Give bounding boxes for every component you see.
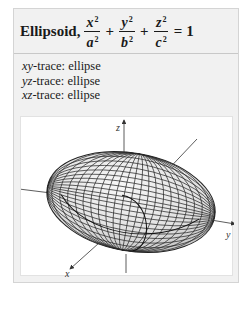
y-axis-label: y: [225, 229, 231, 240]
exponent: 2: [94, 35, 98, 44]
ellipsoid-card: Ellipsoid, x2 a2 + y2 b2 + z2 c2 = 1 xy-…: [13, 8, 239, 283]
trace-description: -trace: ellipse: [33, 59, 101, 73]
fraction-z: z2 c2: [154, 13, 169, 50]
numerator-z: z: [156, 15, 161, 30]
fraction-x: x2 a2: [84, 13, 100, 50]
x-axis: [70, 243, 99, 269]
x-axis-label: x: [64, 268, 70, 277]
y-axis: [211, 220, 234, 224]
ellipsoid-figure: z y x: [20, 116, 233, 276]
equals-sign: =: [174, 23, 183, 40]
z-axis-label: z: [115, 122, 120, 133]
plus-sign: +: [105, 23, 114, 40]
title-word: Ellipsoid,: [20, 23, 80, 40]
trace-description: -trace: ellipse: [32, 88, 100, 102]
plus-sign: +: [140, 23, 149, 40]
card-header: Ellipsoid, x2 a2 + y2 b2 + z2 c2 = 1: [14, 9, 238, 54]
exponent: 2: [129, 35, 133, 44]
trace-list: xy-trace: ellipse yz-trace: ellipse xz-t…: [22, 59, 101, 103]
rhs-value: 1: [186, 23, 194, 40]
numerator-x: x: [86, 15, 93, 30]
trace-yz: yz-trace: ellipse: [22, 74, 101, 89]
trace-description: -trace: ellipse: [32, 74, 100, 88]
trace-plane: xz: [22, 88, 32, 102]
exponent: 2: [94, 15, 98, 24]
denominator-a: a: [86, 35, 93, 50]
exponent: 2: [163, 35, 167, 44]
trace-xy: xy-trace: ellipse: [22, 59, 101, 74]
trace-xz: xz-trace: ellipse: [22, 88, 101, 103]
exponent: 2: [162, 15, 166, 24]
exponent: 2: [129, 15, 133, 24]
fraction-y: y2 b2: [119, 13, 135, 50]
title: Ellipsoid, x2 a2 + y2 b2 + z2 c2 = 1: [20, 13, 198, 50]
trace-plane: xy: [22, 59, 33, 73]
ellipsoid-surface: [39, 139, 223, 265]
denominator-c: c: [156, 35, 162, 50]
ellipsoid-plot: z y x: [21, 117, 234, 277]
numerator-y: y: [121, 15, 127, 30]
trace-plane: yz: [22, 74, 32, 88]
denominator-b: b: [121, 35, 128, 50]
